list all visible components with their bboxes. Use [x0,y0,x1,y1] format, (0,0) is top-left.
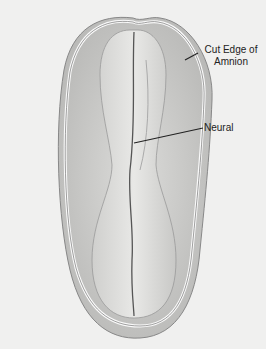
label-cut-edge-line2: Amnion [196,56,266,68]
label-cut-edge-line1: Cut Edge of [196,44,266,56]
label-neural: Neural [204,122,233,134]
label-cut-edge: Cut Edge of Amnion [196,44,266,68]
